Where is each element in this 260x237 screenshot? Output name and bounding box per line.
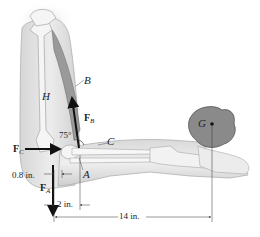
label-force-fa: FA [40,183,50,195]
label-g: G [198,118,206,129]
label-angle: 75° [59,131,72,140]
label-humerus: H [42,91,50,102]
ulna-bone [70,158,150,163]
label-force-fb: FB [84,113,94,125]
label-forearm: C [107,136,114,147]
arm-diagram: H B C A G 75° FB FC FA 0.8 in. 2 in. 14 … [0,0,260,237]
dim-label-2: 2 in. [57,200,73,209]
dim-label-14: 14 in. [119,212,140,221]
leader-b [76,80,84,86]
diagram-svg [0,0,260,237]
label-point-a: A [83,169,90,180]
label-biceps: B [84,75,91,86]
label-force-fc: FC [13,144,24,156]
dim-label-08: 0.8 in. [12,171,35,180]
